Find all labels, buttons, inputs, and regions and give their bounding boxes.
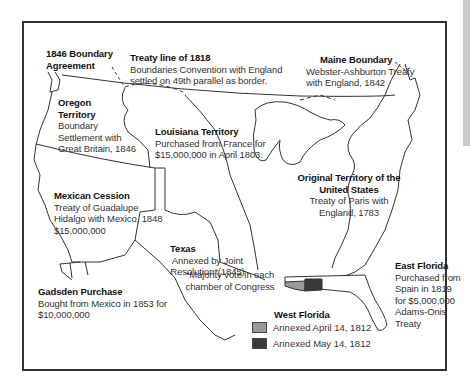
region-desc: Webster-Ashburton Treaty [306, 66, 414, 78]
region-desc: Spain in 1819 [395, 283, 461, 295]
legend-label: Annexed May 14, 1812 [273, 338, 371, 349]
label-maine-boundary: Maine Boundary Webster-Ashburton Treaty … [306, 54, 414, 89]
legend-item-april: Annexed April 14, 1812 [252, 322, 371, 333]
region-desc: Treaty [395, 318, 461, 330]
region-desc: Adams-Onis [395, 306, 461, 318]
label-treaty-1818: Treaty line of 1818 Boundaries Conventio… [130, 52, 282, 87]
west-florida-may-region [305, 279, 322, 291]
region-desc: Purchased from [395, 272, 461, 284]
region-desc: Treaty of Guadalupe [54, 202, 162, 214]
legend-title: West Florida [274, 309, 330, 321]
region-desc: England, 1783 [294, 207, 404, 219]
legend-swatch-light [252, 322, 267, 333]
label-louisiana-territory: Louisiana Territory Purchased from Franc… [155, 126, 266, 161]
region-desc: Treaty of Paris with [294, 195, 404, 207]
region-desc: settled on 49th parallel as border. [130, 75, 282, 87]
west-florida-april-region [285, 281, 305, 291]
legend-label: Annexed April 14, 1812 [273, 322, 371, 333]
east-coast-line [332, 64, 400, 268]
region-desc: for $5,000,000 [395, 295, 461, 307]
label-oregon-territory: Oregon Territory Boundary Settlement wit… [58, 97, 136, 155]
footnote-text: *Majority vote in each [175, 269, 285, 281]
label-mexican-cession: Mexican Cession Treaty of Guadalupe Hida… [54, 190, 162, 236]
region-desc: Boundaries Convention with England [130, 64, 282, 76]
region-desc: Settlement with [58, 132, 136, 144]
region-title: Maine Boundary [306, 54, 414, 66]
label-gadsden-purchase: Gadsden Purchase Bought from Mexico in 1… [38, 286, 167, 321]
region-desc: Annexed by Joint [160, 255, 255, 267]
region-title: Original Territory of the United States [294, 172, 404, 195]
great-lakes [253, 102, 345, 165]
region-desc: Great Britain, 1846 [58, 143, 136, 155]
region-title: Texas [160, 243, 255, 255]
footnote-text: chamber of Congress [175, 281, 285, 293]
region-desc: Purchased from France for [155, 138, 266, 150]
region-desc: $15,000,000 [54, 225, 162, 237]
legend-item-may: Annexed May 14, 1812 [252, 338, 371, 349]
legend-title-text: West Florida [274, 309, 330, 321]
region-title: Oregon Territory [58, 97, 98, 120]
label-1846-boundary: 1846 Boundary Agreement [46, 48, 126, 71]
region-desc: with England, 1842 [306, 77, 414, 89]
region-title: Mexican Cession [54, 190, 162, 202]
legend-swatch-dark [252, 338, 267, 349]
region-title: Louisiana Territory [155, 126, 266, 138]
label-texas-footnote: *Majority vote in each chamber of Congre… [175, 269, 285, 292]
region-desc: Hidalgo with Mexico, 1848 [54, 213, 162, 225]
region-title: Treaty line of 1818 [130, 52, 282, 64]
scrollbar[interactable] [463, 0, 470, 146]
region-title: East Florida [395, 260, 461, 272]
label-east-florida: East Florida Purchased from Spain in 181… [395, 260, 461, 329]
region-title: 1846 Boundary Agreement [46, 48, 126, 71]
label-original-territory: Original Territory of the United States … [294, 172, 404, 218]
region-desc: Bought from Mexico in 1853 for [38, 298, 167, 310]
region-title: Gadsden Purchase [38, 286, 167, 298]
region-desc: $15,000,000 in April 1803. [155, 149, 266, 161]
region-desc: $10,000,000 [38, 309, 167, 321]
region-desc: Boundary [58, 120, 136, 132]
